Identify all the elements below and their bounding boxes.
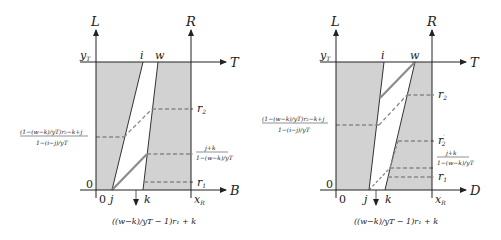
label-B: B xyxy=(229,183,240,198)
label-r1: r1 xyxy=(438,170,447,183)
label-w: w xyxy=(410,49,420,62)
label-T: T xyxy=(230,55,240,70)
label-i: i xyxy=(140,49,144,62)
label-jk-fraction: j+k 1−(w−k)/yT xyxy=(196,144,234,162)
label-left-fraction: (1−(w−k)/yT)r₂−k+j 1−(i−j)/yT xyxy=(262,115,328,134)
label-r2: r2 xyxy=(197,102,206,115)
shaded-region-left xyxy=(96,62,143,190)
label-jk-fraction: j+k 1−(w−k)/yT xyxy=(437,149,475,167)
label-k: k xyxy=(144,193,151,206)
label-origin-x: 0 xyxy=(339,193,346,206)
label-r2: r2 xyxy=(438,88,447,101)
label-D: D xyxy=(469,183,481,198)
svg-text:1−(w−k)/yT: 1−(w−k)/yT xyxy=(196,154,234,162)
label-R: R xyxy=(185,14,196,29)
label-bottom-formula: ((w−k)/yT − 1)r₁ + k xyxy=(112,217,196,226)
left-diagram: L R T B yT i w 0 0 j k xR r2 r1 j+k 1−(w… xyxy=(20,14,240,226)
label-yT: yT xyxy=(79,49,91,62)
right-diagram: L R T D yT i w 0 0 j k xR r2 r′2 r1 j+k … xyxy=(262,14,481,226)
label-origin-x: 0 xyxy=(99,193,106,206)
label-xR: xR xyxy=(194,193,205,206)
svg-text:1−(w−k)/yT: 1−(w−k)/yT xyxy=(437,159,475,167)
label-k: k xyxy=(385,193,392,206)
label-L: L xyxy=(330,14,340,29)
label-yT: yT xyxy=(319,49,331,62)
svg-text:(1−(w−k)/yT)r₂−k+j: (1−(w−k)/yT)r₂−k+j xyxy=(20,128,82,136)
label-left-fraction: (1−(w−k)/yT)r₂−k+j 1−(i−j)/yT xyxy=(20,128,88,147)
label-origin-y: 0 xyxy=(86,178,93,191)
svg-text:1−(i−j)/yT: 1−(i−j)/yT xyxy=(278,126,311,134)
shaded-region-right xyxy=(385,62,432,190)
svg-text:(1−(w−k)/yT)r₂−k+j: (1−(w−k)/yT)r₂−k+j xyxy=(262,115,324,123)
svg-text:j+k: j+k xyxy=(203,144,216,152)
label-T: T xyxy=(470,55,480,70)
svg-text:j+k: j+k xyxy=(444,149,457,157)
label-R: R xyxy=(426,14,437,29)
label-xR: xR xyxy=(435,193,446,206)
diagram-canvas: L R T B yT i w 0 0 j k xR r2 r1 j+k 1−(w… xyxy=(0,0,501,240)
label-w: w xyxy=(155,49,165,62)
label-L: L xyxy=(90,14,100,29)
label-j: j xyxy=(107,193,114,206)
label-origin-y: 0 xyxy=(326,178,333,191)
label-r1: r1 xyxy=(197,176,206,189)
svg-text:1−(i−j)/yT: 1−(i−j)/yT xyxy=(36,139,69,147)
label-i: i xyxy=(381,49,385,62)
label-r2-prime: r′2 xyxy=(438,133,446,147)
label-bottom-formula: ((w−k)/yT − 1)r₁ + k xyxy=(354,217,438,226)
label-j: j xyxy=(361,193,368,206)
